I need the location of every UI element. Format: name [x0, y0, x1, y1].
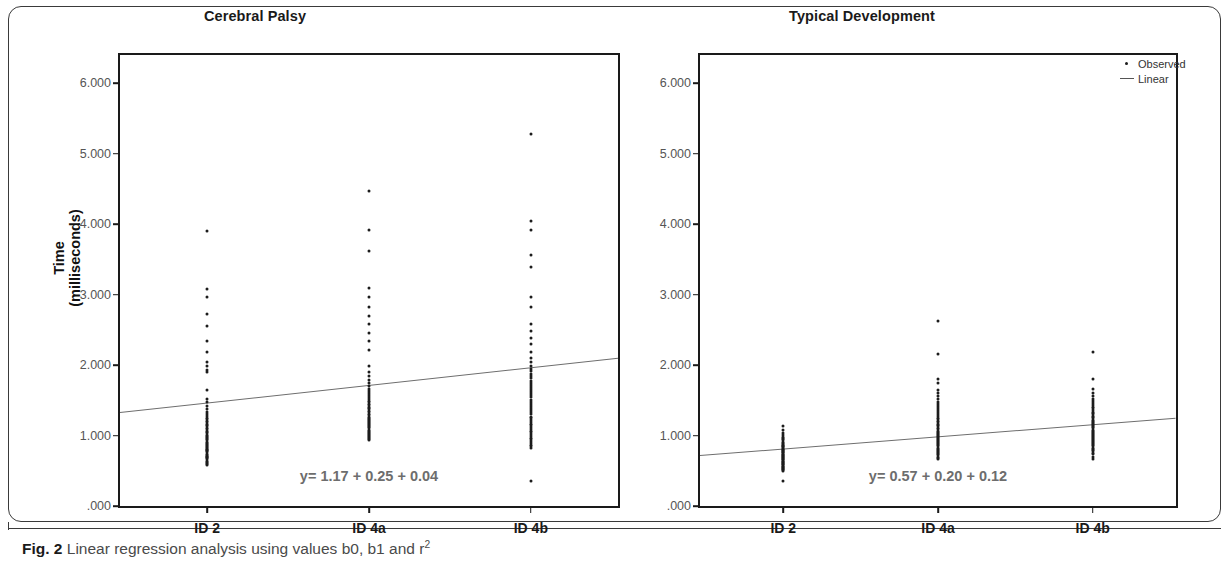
plot-area-cerebral-palsy: .0001.0002.0003.0004.0005.0006.000ID 2ID…	[118, 53, 620, 508]
data-point	[206, 287, 209, 290]
data-point	[529, 357, 532, 360]
data-point	[782, 479, 785, 482]
y-axis-tick-0: .000	[667, 499, 700, 513]
panel-typical-development: Typical Development .0001.0002.0003.0004…	[620, 0, 1180, 516]
data-point	[206, 351, 209, 354]
legend-label-linear: Linear	[1135, 73, 1169, 85]
y-axis-tick-4: 4.000	[80, 217, 120, 231]
data-point	[206, 388, 209, 391]
x-axis-label-id-4b: ID 4b	[514, 520, 548, 536]
data-point	[368, 306, 371, 309]
y-axis-tick-6: 6.000	[80, 76, 120, 90]
x-axis-label-id-2: ID 2	[770, 520, 796, 536]
y-axis-tick-2: 2.000	[660, 358, 700, 372]
data-point	[937, 352, 940, 355]
figure-caption-superscript: 2	[424, 539, 430, 550]
data-point	[529, 220, 532, 223]
data-point	[529, 228, 532, 231]
plot-area-typical-development: .0001.0002.0003.0004.0005.0006.000ID 2ID…	[698, 53, 1178, 508]
data-point	[206, 230, 209, 233]
data-point	[529, 306, 532, 309]
panel-cerebral-palsy: Cerebral Palsy Time (milliseconds) .0001…	[0, 0, 620, 516]
data-point	[529, 480, 532, 483]
data-point	[937, 382, 940, 385]
figure-caption-text: Linear regression analysis using values …	[62, 540, 424, 557]
linear-line-icon	[1118, 78, 1135, 80]
data-point	[368, 331, 371, 334]
data-point	[937, 320, 940, 323]
data-point	[368, 340, 371, 343]
y-axis-tick-3: 3.000	[80, 288, 120, 302]
y-axis-tick-6: 6.000	[660, 76, 700, 90]
data-point	[368, 348, 371, 351]
data-point	[529, 351, 532, 354]
x-axis-tick-2	[530, 506, 532, 513]
legend-item-observed: Observed	[1118, 56, 1186, 71]
data-point	[529, 330, 532, 333]
data-point	[368, 190, 371, 193]
data-point	[206, 340, 209, 343]
x-axis-tick-0	[783, 506, 785, 513]
data-point	[1091, 458, 1094, 461]
data-point	[529, 266, 532, 269]
y-axis-tick-5: 5.000	[660, 147, 700, 161]
x-axis-label-id-4a: ID 4a	[352, 520, 385, 536]
figure-caption: Fig. 2 Linear regression analysis using …	[22, 539, 430, 558]
panel-title-cerebral-palsy: Cerebral Palsy	[0, 8, 565, 24]
data-point	[206, 400, 209, 403]
data-point	[368, 286, 371, 289]
x-axis-tick-2	[1092, 506, 1094, 513]
y-axis-tick-4: 4.000	[660, 217, 700, 231]
y-axis-tick-1: 1.000	[80, 429, 120, 443]
data-point	[206, 464, 209, 467]
data-point	[529, 342, 532, 345]
data-point	[529, 447, 532, 450]
data-point	[937, 378, 940, 381]
data-point	[1091, 378, 1094, 381]
data-point	[368, 296, 371, 299]
regression-equation: y= 1.17 + 0.25 + 0.04	[300, 468, 438, 484]
y-axis-tick-5: 5.000	[80, 147, 120, 161]
data-point	[1091, 351, 1094, 354]
data-point	[368, 371, 371, 374]
data-point	[1091, 388, 1094, 391]
x-axis-label-id-4b: ID 4b	[1076, 520, 1110, 536]
figure-root: Cerebral Palsy Time (milliseconds) .0001…	[0, 0, 1231, 580]
data-point	[529, 336, 532, 339]
data-point	[368, 365, 371, 368]
data-point	[529, 132, 532, 135]
data-point	[368, 249, 371, 252]
y-axis-tick-3: 3.000	[660, 288, 700, 302]
data-point	[368, 323, 371, 326]
data-point	[206, 360, 209, 363]
regression-equation: y= 0.57 + 0.20 + 0.12	[869, 468, 1007, 484]
data-point	[937, 458, 940, 461]
x-axis-tick-0	[206, 506, 208, 513]
data-point	[368, 228, 371, 231]
x-axis-label-id-2: ID 2	[194, 520, 220, 536]
x-axis-tick-1	[937, 506, 939, 513]
caption-divider	[8, 528, 1221, 529]
data-point	[529, 323, 532, 326]
data-point	[206, 313, 209, 316]
legend-label-observed: Observed	[1135, 58, 1186, 70]
figure-caption-label: Fig. 2	[22, 540, 62, 557]
x-axis-tick-1	[368, 506, 370, 513]
data-point	[368, 438, 371, 441]
y-axis-tick-1: 1.000	[660, 429, 700, 443]
y-axis-title-main: Time	[51, 209, 67, 307]
data-point	[206, 296, 209, 299]
data-point	[206, 324, 209, 327]
y-axis-tick-2: 2.000	[80, 358, 120, 372]
legend-item-linear: Linear	[1118, 71, 1186, 86]
data-point	[206, 371, 209, 374]
observed-dot-icon	[1118, 62, 1135, 65]
x-axis-label-id-4a: ID 4a	[921, 520, 954, 536]
data-point	[368, 314, 371, 317]
y-axis-title: Time (milliseconds)	[51, 209, 83, 307]
chart-legend: Observed Linear	[1118, 56, 1186, 86]
data-point	[529, 296, 532, 299]
panel-title-typical-development: Typical Development	[582, 8, 1142, 24]
data-point	[529, 254, 532, 257]
y-axis-tick-0: .000	[87, 499, 120, 513]
